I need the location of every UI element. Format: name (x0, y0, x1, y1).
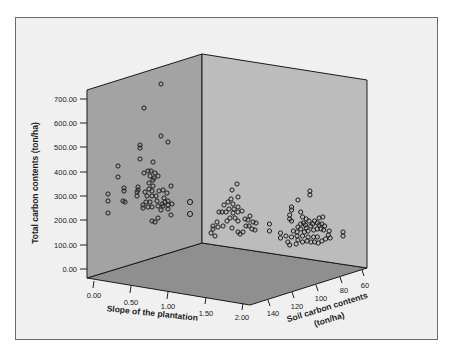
left-wall-plane (87, 54, 202, 278)
x-tick-label: 2.00 (235, 313, 250, 322)
scatter-3d-chart: 700.00 600.00 500.00 400.00 300.00 200.0… (0, 0, 452, 353)
y-tick-labels: 700.00 600.00 500.00 400.00 300.00 200.0… (54, 95, 77, 274)
y-tick-label: 700.00 (54, 95, 77, 104)
y-axis (80, 99, 87, 269)
x-tick-label: 1.50 (199, 309, 214, 318)
y-tick-label: 300.00 (54, 192, 77, 201)
y-tick-label: 500.00 (54, 143, 77, 152)
y-tick-label: 0.00 (62, 265, 77, 274)
z-tick-label: 60 (361, 281, 369, 290)
y-tick-label: 200.00 (54, 216, 77, 225)
x-axis-title: Slope of the plantation (106, 303, 198, 323)
x-tick-label: 0.00 (87, 291, 102, 300)
z-tick-label: 80 (340, 286, 348, 295)
y-tick-label: 400.00 (54, 168, 77, 177)
z-tick-label: 140 (267, 309, 280, 318)
y-tick-label: 100.00 (54, 241, 77, 250)
y-tick-label: 600.00 (54, 119, 77, 128)
right-wall-plane (202, 54, 367, 268)
y-axis-title: Total carbon contents (ton/ha) (30, 122, 40, 244)
